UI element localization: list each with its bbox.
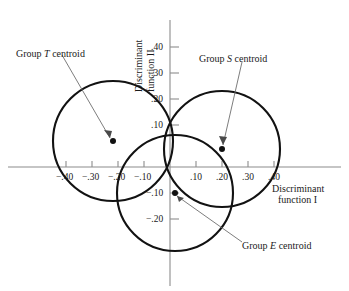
callout-e-symbol: E xyxy=(270,240,276,251)
callout-t-prefix: Group xyxy=(16,48,42,59)
x-tick-label-0.10: .10 xyxy=(190,172,202,182)
x-tick-label--0.20: −.20 xyxy=(108,172,125,182)
x-tick-label--0.40: −.40 xyxy=(56,172,73,182)
leader-line-t xyxy=(62,55,110,138)
x-tick-label-0.40: .40 xyxy=(268,172,280,182)
centroid-dot-e xyxy=(172,190,178,196)
arrowhead-t xyxy=(104,130,112,138)
callout-s-symbol: S xyxy=(227,53,232,64)
x-tick-label-0.20: .20 xyxy=(216,172,228,182)
y-tick-label--0.20: −.20 xyxy=(146,214,163,224)
callout-s-suffix: centroid xyxy=(235,53,268,64)
arrowhead-e xyxy=(177,196,184,202)
callout-t-suffix: centroid xyxy=(52,48,85,59)
centroid-dot-t xyxy=(110,138,116,144)
territory-circles xyxy=(53,81,280,251)
callout-t-symbol: T xyxy=(44,48,50,59)
centroid-dot-s xyxy=(219,146,225,152)
callout-group-e: Group E centroid xyxy=(242,240,311,251)
callout-e-prefix: Group xyxy=(242,240,268,251)
y-axis-title-line1: Discriminant xyxy=(133,40,144,92)
y-tick-label-0.20: .20 xyxy=(151,94,163,104)
y-tick-label-0.10: .10 xyxy=(151,120,163,130)
discriminant-function-plot: −.40 −.30 −.20 −.10 .10 .20 .30 .40 .40 … xyxy=(0,0,349,291)
callout-s-prefix: Group xyxy=(199,53,225,64)
x-tick-label--0.30: −.30 xyxy=(82,172,99,182)
callout-group-s: Group S centroid xyxy=(199,53,267,64)
leader-line-s xyxy=(223,62,242,145)
x-axis-title-line2: function I xyxy=(278,194,317,205)
callout-e-suffix: centroid xyxy=(279,240,312,251)
x-axis-title-line1: Discriminant xyxy=(272,183,324,194)
callout-group-t: Group T centroid xyxy=(16,48,85,59)
x-tick-label--0.10: −.10 xyxy=(134,172,151,182)
y-axis-title-line2: function II xyxy=(145,50,156,93)
arrowhead-s xyxy=(219,136,227,145)
y-tick-label--0.10: −.10 xyxy=(146,188,163,198)
x-tick-label-0.30: .30 xyxy=(242,172,254,182)
